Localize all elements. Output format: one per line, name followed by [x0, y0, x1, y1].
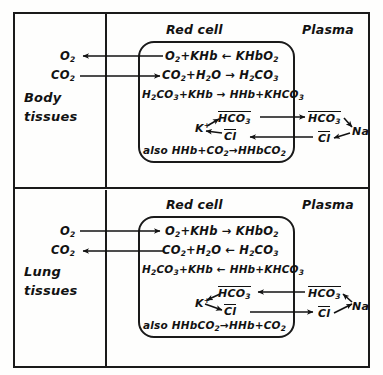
- ion-sodium-body: Na: [352, 126, 369, 137]
- ion-chloride-cell-body: Cl: [224, 131, 236, 142]
- ion-bicarbonate-plasma-body: HCO3: [308, 113, 341, 126]
- header-red-cell-bottom: Red cell: [166, 199, 223, 212]
- tissue-label-body-line1: Body: [24, 91, 61, 104]
- tissue-column-divider-bottom: [105, 190, 107, 368]
- o2-subscript-lung: 2: [70, 230, 75, 239]
- ion-potassium-body: K+: [195, 122, 210, 134]
- ion-chloride-cell-lung: Cl: [224, 306, 236, 317]
- equation-carbonic-breakdown: CO2+H2O ← H2CO3: [162, 245, 279, 258]
- tissue-label-body-line2: tissues: [24, 110, 77, 123]
- equation-debuffering-lung: H2CO3+KHb ← HHb+KHCO3: [142, 264, 304, 277]
- equation-carbonic-formation: CO2+H2O → H2CO3: [162, 70, 279, 83]
- ion-bicarbonate-cell-lung: HCO3: [218, 288, 251, 301]
- header-red-cell-top: Red cell: [166, 24, 223, 37]
- tissue-label-lung-line1: Lung: [24, 265, 61, 278]
- tissue-column-divider-top: [105, 12, 107, 187]
- ion-sodium-lung: Na: [352, 301, 369, 312]
- equation-oxygen-uptake: O2+KHb → KHbO2: [165, 226, 279, 239]
- ion-potassium-lung: K+: [195, 297, 210, 309]
- gas-label-o2-body: O2: [60, 51, 75, 64]
- diagram-canvas: Red cell Plasma Body tissues O2 CO2 O2+K…: [0, 0, 383, 375]
- co2-subscript-lung: 2: [70, 249, 75, 258]
- gas-label-co2-body: CO2: [51, 70, 75, 83]
- equation-buffering-body: H2CO3+KHb → HHb+KHCO3: [142, 89, 304, 102]
- gas-label-co2-lung: CO2: [51, 245, 75, 258]
- ion-bicarbonate-cell-body: HCO3: [218, 113, 251, 126]
- panel-horizontal-divider: [13, 187, 370, 189]
- equation-oxygen-release: O2+KHb ← KHbO2: [165, 51, 279, 64]
- equation-carbamino-body: also HHb+CO2→HHbCO2: [143, 145, 286, 158]
- tissue-label-lung-line2: tissues: [24, 284, 77, 297]
- o2-subscript-body: 2: [70, 55, 75, 64]
- ion-chloride-plasma-lung: Cl: [318, 308, 330, 319]
- equation-carbamino-lung: also HHbCO2→HHb+CO2: [143, 320, 286, 333]
- ion-bicarbonate-plasma-lung: HCO3: [308, 288, 341, 301]
- ion-chloride-plasma-body: Cl: [318, 133, 330, 144]
- header-plasma-top: Plasma: [302, 24, 354, 37]
- co2-subscript-body: 2: [70, 74, 75, 83]
- gas-label-o2-lung: O2: [60, 226, 75, 239]
- header-plasma-bottom: Plasma: [302, 199, 354, 212]
